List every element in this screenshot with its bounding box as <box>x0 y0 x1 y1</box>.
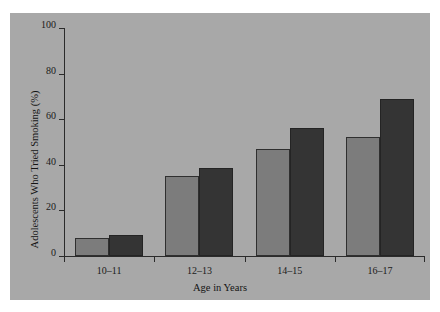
bar-1-1 <box>199 168 233 256</box>
y-tick-label: 20 <box>46 202 56 212</box>
bar-3-1 <box>380 99 414 256</box>
x-axis-label: Age in Years <box>10 283 430 294</box>
x-tick-mark <box>335 257 336 262</box>
y-tick-label: 60 <box>46 111 56 121</box>
x-tick-mark <box>245 257 246 262</box>
bar-3-0 <box>346 137 380 256</box>
chart-figure: Adolescents Who Tried Smoking (%) 020406… <box>0 0 440 312</box>
y-tick-mark <box>59 28 64 29</box>
bar-0-0 <box>75 238 109 256</box>
x-tick-mark <box>154 257 155 262</box>
bar-1-0 <box>165 176 199 256</box>
bar-0-1 <box>109 235 143 256</box>
bar-2-1 <box>290 128 324 256</box>
x-tick-label-2: 14–15 <box>250 266 330 276</box>
x-tick-label-1: 12–13 <box>159 266 239 276</box>
y-tick-label: 80 <box>46 66 56 76</box>
x-tick-mark <box>424 257 425 262</box>
chart-panel: Adolescents Who Tried Smoking (%) 020406… <box>10 13 430 300</box>
y-tick-label: 0 <box>51 248 56 258</box>
y-tick-label: 100 <box>41 20 56 30</box>
y-axis-label: Adolescents Who Tried Smoking (%) <box>28 26 42 312</box>
bar-2-0 <box>256 149 290 256</box>
x-tick-label-0: 10–11 <box>69 266 149 276</box>
plot-area: 020406080100 10–1112–1314–1516–17 <box>64 28 424 269</box>
y-tick-mark <box>59 165 64 166</box>
x-tick-label-3: 16–17 <box>340 266 420 276</box>
y-tick-mark <box>59 210 64 211</box>
y-axis-line <box>64 28 65 257</box>
y-tick-label: 40 <box>46 157 56 167</box>
y-tick-mark <box>59 74 64 75</box>
y-tick-mark <box>59 119 64 120</box>
x-tick-mark <box>64 257 65 262</box>
